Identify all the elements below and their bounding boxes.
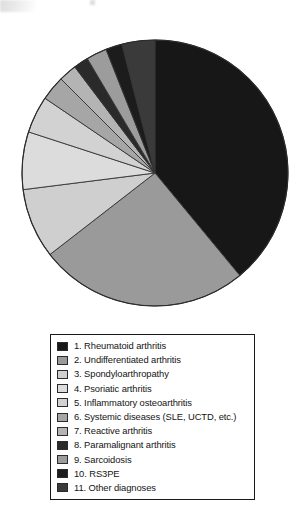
legend-item-label: 8. Paramalignant arthritis [74, 440, 176, 450]
legend-item-label: 10. RS3PE [74, 469, 119, 479]
legend-swatch-icon [57, 370, 68, 379]
legend-item: 4. Psoriatic arthritis [57, 382, 249, 396]
legend-item-label: 7. Reactive arthritis [74, 426, 152, 436]
legend-swatch-icon [57, 356, 68, 365]
legend-item-label: 5. Inflammatory osteoarthritis [74, 398, 192, 408]
legend-item: 2. Undifferentiated arthritis [57, 353, 249, 367]
legend-item-label: 2. Undifferentiated arthritis [74, 355, 181, 365]
legend-item: 6. Systemic diseases (SLE, UCTD, etc.) [57, 410, 249, 424]
legend-item-label: 4. Psoriatic arthritis [74, 384, 152, 394]
legend-item-label: 9. Sarcoidosis [74, 455, 131, 465]
legend-item-label: 11. Other diagnoses [74, 483, 156, 493]
pie-chart [0, 0, 300, 318]
legend-item: 9. Sarcoidosis [57, 453, 249, 467]
legend-item-label: 1. Rheumatoid arthritis [74, 341, 166, 351]
legend-swatch-icon [57, 441, 68, 450]
legend-item: 8. Paramalignant arthritis [57, 438, 249, 452]
legend-item: 5. Inflammatory osteoarthritis [57, 396, 249, 410]
legend-item-label: 6. Systemic diseases (SLE, UCTD, etc.) [74, 412, 236, 422]
legend-swatch-icon [57, 413, 68, 422]
legend-item: 11. Other diagnoses [57, 481, 249, 495]
legend-swatch-icon [57, 398, 68, 407]
legend-item-label: 3. Spondyloarthropathy [74, 369, 169, 379]
legend-swatch-icon [57, 483, 68, 492]
legend-swatch-icon [57, 455, 68, 464]
legend: 1. Rheumatoid arthritis2. Undifferentiat… [50, 334, 255, 500]
legend-item: 7. Reactive arthritis [57, 424, 249, 438]
legend-item: 1. Rheumatoid arthritis [57, 339, 249, 353]
legend-swatch-icon [57, 384, 68, 393]
legend-swatch-icon [57, 469, 68, 478]
legend-item: 10. RS3PE [57, 467, 249, 481]
legend-swatch-icon [57, 342, 68, 351]
pie-slice-group [22, 40, 288, 306]
legend-item: 3. Spondyloarthropathy [57, 367, 249, 381]
legend-swatch-icon [57, 427, 68, 436]
pie-chart-area [0, 0, 300, 318]
